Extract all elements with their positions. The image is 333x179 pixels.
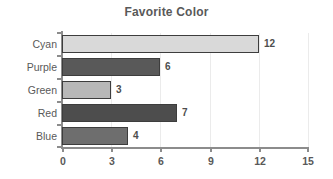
x-axis-tick [111, 147, 113, 152]
x-tick-label-12: 12 [245, 155, 275, 167]
bar-cyan[interactable] [62, 35, 259, 53]
bar-value-green: 3 [116, 81, 122, 99]
x-tick-label-3: 3 [97, 155, 127, 167]
y-axis-label-green: Green [0, 81, 57, 99]
bar-value-purple: 6 [165, 58, 171, 76]
x-tick-label-0: 0 [48, 155, 78, 167]
y-axis-tick [57, 32, 62, 34]
x-tick-label-15: 15 [293, 155, 323, 167]
bar-blue[interactable] [62, 127, 128, 145]
x-tick-label-9: 9 [196, 155, 226, 167]
y-axis-tick [57, 101, 62, 103]
bar-green[interactable] [62, 81, 111, 99]
y-axis-label-cyan: Cyan [0, 35, 57, 53]
y-axis-label-purple: Purple [0, 58, 57, 76]
x-axis-tick [210, 147, 212, 152]
bar-value-blue: 4 [133, 127, 139, 145]
x-axis-line [61, 147, 309, 149]
bar-value-red: 7 [182, 104, 188, 122]
x-axis-tick [160, 147, 162, 152]
y-axis-label-blue: Blue [0, 127, 57, 145]
y-axis-label-red: Red [0, 104, 57, 122]
x-axis-tick [62, 147, 64, 152]
gridline [259, 33, 260, 147]
y-axis-tick [57, 55, 62, 57]
y-axis-tick [57, 124, 62, 126]
bar-value-cyan: 12 [264, 35, 275, 53]
gridline [308, 33, 309, 147]
y-axis-tick [57, 78, 62, 80]
x-axis-tick [307, 147, 309, 152]
bar-chart: Favorite Color Cyan Purple Green Red Blu… [0, 0, 333, 179]
bar-red[interactable] [62, 104, 177, 122]
x-axis-tick [259, 147, 261, 152]
x-tick-label-6: 6 [146, 155, 176, 167]
bar-purple[interactable] [62, 58, 160, 76]
chart-title: Favorite Color [0, 5, 333, 19]
